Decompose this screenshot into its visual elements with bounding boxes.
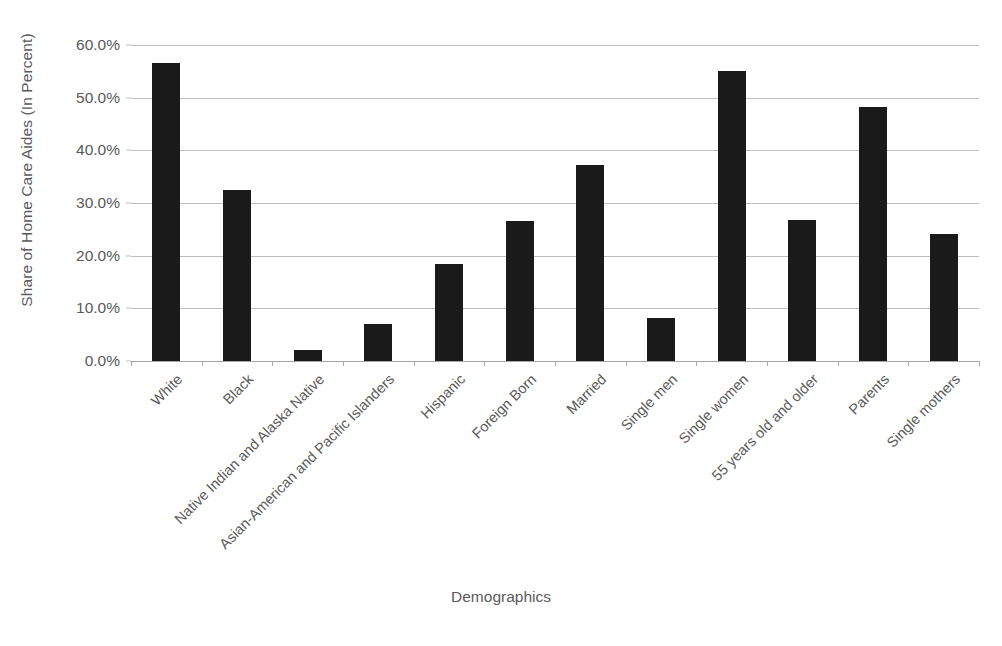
x-axis-tick-mark: [272, 361, 273, 366]
plot-area: [131, 45, 979, 361]
bar[interactable]: [788, 220, 816, 361]
x-axis-tick-mark: [414, 361, 415, 366]
bar-slot: [908, 45, 979, 361]
x-axis-tick-mark: [838, 361, 839, 366]
bar[interactable]: [223, 190, 251, 361]
x-axis-tick-mark: [979, 361, 980, 366]
bar-slot: [696, 45, 767, 361]
x-axis-category-label-text: Single mothers: [883, 371, 963, 451]
x-axis-tick-mark: [202, 361, 203, 366]
bar-slot: [414, 45, 485, 361]
y-axis-tick-label: 10.0%: [34, 299, 120, 317]
bar-slot: [626, 45, 697, 361]
bar[interactable]: [576, 165, 604, 361]
x-axis-category-label-text: Single men: [618, 371, 681, 434]
x-axis-category-label: Single women: [675, 371, 751, 447]
y-axis-tick-label: 60.0%: [34, 36, 120, 54]
x-axis-tick-mark: [626, 361, 627, 366]
bar[interactable]: [294, 350, 322, 361]
bar-slot: [202, 45, 273, 361]
y-axis-tick-label: 0.0%: [34, 352, 120, 370]
bar-slot: [272, 45, 343, 361]
x-axis-category-label: Foreign Born: [468, 371, 539, 442]
x-axis-category-label: White: [148, 371, 186, 409]
bar-slot: [555, 45, 626, 361]
x-axis-tick-mark: [555, 361, 556, 366]
x-axis-tick-mark: [131, 361, 132, 366]
x-axis-category-label: Single men: [618, 371, 681, 434]
y-axis-tick-label: 50.0%: [34, 89, 120, 107]
x-axis-category-labels: WhiteBlackNative Indian and Alaska Nativ…: [131, 367, 979, 572]
bar[interactable]: [364, 324, 392, 361]
bar[interactable]: [647, 318, 675, 361]
bar[interactable]: [930, 234, 958, 361]
x-axis-category-label: Married: [564, 371, 610, 417]
x-axis-category-label-text: Married: [564, 371, 610, 417]
x-axis-category-label-text: Hispanic: [418, 371, 469, 422]
x-axis-tick-mark: [696, 361, 697, 366]
bar-slot: [767, 45, 838, 361]
bar-slot: [343, 45, 414, 361]
y-axis-tick-label: 40.0%: [34, 141, 120, 159]
x-axis-tick-mark: [767, 361, 768, 366]
bar[interactable]: [506, 221, 534, 361]
bar[interactable]: [152, 63, 180, 361]
x-axis-tick-mark: [343, 361, 344, 366]
y-axis-tick-label: 30.0%: [34, 194, 120, 212]
x-axis-category-label-text: Parents: [846, 371, 893, 418]
x-axis-tick-mark: [484, 361, 485, 366]
bar-slot: [131, 45, 202, 361]
y-axis-tick-label: 20.0%: [34, 247, 120, 265]
x-axis-category-label: Native Indian and Alaska Native: [171, 371, 327, 527]
x-axis-category-label-text: Black: [220, 371, 256, 407]
x-axis-category-label: Black: [220, 371, 256, 407]
bar-slot: [484, 45, 555, 361]
x-axis-tick-mark: [908, 361, 909, 366]
bar[interactable]: [435, 264, 463, 361]
bars-layer: [131, 45, 979, 361]
bar-slot: [838, 45, 909, 361]
x-axis-title: Demographics: [0, 588, 1002, 606]
x-axis-category-label: Single mothers: [883, 371, 963, 451]
x-axis-category-label: Parents: [846, 371, 893, 418]
bar[interactable]: [718, 71, 746, 361]
x-axis-category-label-text: Single women: [675, 371, 751, 447]
x-axis-category-label: Hispanic: [418, 371, 469, 422]
x-axis-category-label-text: Native Indian and Alaska Native: [171, 371, 327, 527]
x-axis-category-label-text: White: [148, 371, 186, 409]
y-axis-tick-labels: 60.0%50.0%40.0%30.0%20.0%10.0%0.0%: [20, 45, 120, 361]
x-axis-category-label-text: Foreign Born: [468, 371, 539, 442]
bar-chart: Share of Home Care Aides (In Percent) 60…: [0, 0, 1002, 646]
bar[interactable]: [859, 107, 887, 361]
